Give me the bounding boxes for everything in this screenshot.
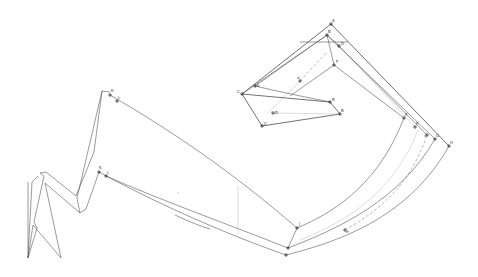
svg-text:L: L bbox=[107, 170, 110, 175]
svg-text:K: K bbox=[99, 165, 102, 170]
svg-text:B: B bbox=[332, 97, 335, 102]
left-panel-outline bbox=[28, 91, 110, 258]
lower-seam-2 bbox=[99, 172, 286, 255]
svg-text:e: e bbox=[346, 229, 349, 234]
svg-text:B: B bbox=[341, 108, 344, 113]
right-curved-bands bbox=[286, 118, 449, 255]
svg-text:L: L bbox=[118, 95, 121, 100]
svg-text:C: C bbox=[264, 121, 267, 126]
upper-long-seam bbox=[110, 95, 297, 228]
svg-text:J: J bbox=[298, 221, 300, 226]
svg-text:C: C bbox=[237, 89, 240, 94]
drawing-canvas: A B D F a b C B D B C E E c G H K L K L … bbox=[0, 0, 478, 277]
svg-text:a: a bbox=[297, 75, 300, 80]
svg-text:A: A bbox=[332, 18, 335, 23]
svg-text:D: D bbox=[341, 41, 344, 46]
svg-text:F: F bbox=[336, 59, 339, 64]
upper-right-panel bbox=[242, 24, 449, 146]
svg-text:H: H bbox=[450, 140, 453, 145]
lower-seam-1 bbox=[106, 176, 288, 248]
inner-quad bbox=[242, 86, 340, 126]
svg-text:B: B bbox=[328, 29, 331, 34]
point-markers bbox=[97, 22, 451, 257]
svg-text:G: G bbox=[436, 133, 439, 138]
svg-text:D: D bbox=[275, 110, 278, 115]
svg-text:c: c bbox=[424, 133, 426, 138]
svg-text:K: K bbox=[111, 88, 114, 93]
point-labels: A B D F a b C B D B C E E c G H K L K L … bbox=[99, 18, 453, 234]
